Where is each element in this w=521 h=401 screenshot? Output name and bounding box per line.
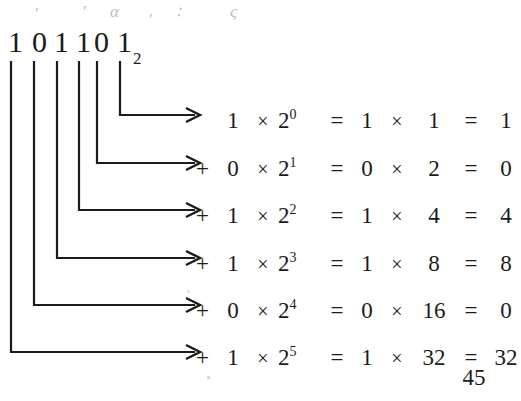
multiply-sign-2: ×: [382, 296, 412, 326]
multiply-sign: ×: [248, 249, 278, 279]
bit-value: 1: [218, 343, 248, 373]
plus-sign: +: [196, 201, 218, 231]
bit-value: 0: [218, 296, 248, 326]
multiply-sign: ×: [248, 296, 278, 326]
bit-value: 1: [218, 106, 248, 136]
bit-value-2: 1: [352, 201, 382, 231]
power-term: 21: [278, 148, 322, 184]
row-result: 0: [486, 296, 521, 326]
power-term: 24: [278, 290, 322, 326]
row-result: 1: [486, 106, 521, 136]
place-value: 32: [412, 343, 456, 373]
multiply-sign: ×: [248, 154, 278, 184]
page-speck: [187, 290, 190, 293]
power-exponent: 3: [290, 250, 297, 265]
multiply-sign: ×: [248, 106, 278, 136]
bit-value-2: 1: [352, 249, 382, 279]
power-term: 22: [278, 195, 322, 231]
equation-row: +1×23=1×8=8: [196, 243, 521, 273]
page-speck: [207, 376, 210, 379]
leader-line: [34, 62, 200, 312]
place-value: 8: [412, 249, 456, 279]
bit-value: 0: [218, 154, 248, 184]
power-term: 20: [278, 100, 322, 136]
equals-sign: =: [322, 343, 352, 373]
equals-sign-2: =: [456, 249, 486, 279]
multiply-sign-2: ×: [382, 343, 412, 373]
power-base: 2: [278, 156, 290, 181]
power-exponent: 2: [290, 202, 297, 217]
plus-sign: +: [196, 154, 218, 184]
power-base: 2: [278, 108, 290, 133]
equals-sign-2: =: [456, 201, 486, 231]
place-value: 2: [412, 154, 456, 184]
equals-sign: =: [322, 249, 352, 279]
row-result: 4: [486, 201, 521, 231]
place-value: 1: [412, 106, 456, 136]
multiply-sign-2: ×: [382, 201, 412, 231]
bit-value-2: 0: [352, 154, 382, 184]
equation-row: 1×20=1×1=1: [196, 100, 521, 130]
row-result: 0: [486, 154, 521, 184]
power-term: 25: [278, 337, 322, 373]
place-value: 4: [412, 201, 456, 231]
power-term: 23: [278, 243, 322, 279]
pencil-mark: ς: [230, 2, 237, 22]
equation-row: +0×24=0×16=0: [196, 290, 521, 320]
equation-row: +0×21=0×2=0: [196, 148, 521, 178]
power-exponent: 0: [290, 107, 297, 122]
equals-sign: =: [322, 201, 352, 231]
bit-value-2: 1: [352, 343, 382, 373]
decimal-total: 45: [452, 364, 496, 392]
equals-sign-2: =: [456, 106, 486, 136]
plus-sign: +: [196, 249, 218, 279]
bit-value: 1: [218, 249, 248, 279]
power-base: 2: [278, 203, 290, 228]
equals-sign-2: =: [456, 154, 486, 184]
multiply-sign: ×: [248, 343, 278, 373]
multiply-sign: ×: [248, 201, 278, 231]
equation-row: +1×22=1×4=4: [196, 195, 521, 225]
row-result: 8: [486, 249, 521, 279]
plus-sign: +: [196, 296, 218, 326]
bit-value-2: 1: [352, 106, 382, 136]
equation-row: +1×25=1×32=32: [196, 337, 521, 367]
equals-sign: =: [322, 296, 352, 326]
power-base: 2: [278, 345, 290, 370]
leader-line: [120, 62, 200, 122]
equals-sign: =: [322, 106, 352, 136]
equals-sign-2: =: [456, 296, 486, 326]
plus-sign: +: [196, 343, 218, 373]
equals-sign: =: [322, 154, 352, 184]
power-exponent: 4: [290, 297, 297, 312]
multiply-sign-2: ×: [382, 106, 412, 136]
power-exponent: 1: [290, 155, 297, 170]
multiply-sign-2: ×: [382, 249, 412, 279]
multiply-sign-2: ×: [382, 154, 412, 184]
bit-value: 1: [218, 201, 248, 231]
bit-value-2: 0: [352, 296, 382, 326]
power-base: 2: [278, 298, 290, 323]
place-value: 16: [412, 296, 456, 326]
power-base: 2: [278, 251, 290, 276]
power-exponent: 5: [290, 344, 297, 359]
